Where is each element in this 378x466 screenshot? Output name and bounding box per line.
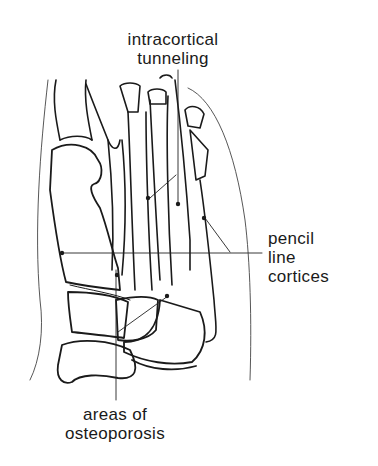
- foot-skeleton-drawing: [0, 0, 378, 466]
- leader-lines: [62, 70, 262, 400]
- metatarsals: [54, 80, 216, 342]
- tarsal-bones: [50, 145, 205, 383]
- soft-tissue-outline: [30, 80, 251, 380]
- phalanges: [120, 75, 208, 180]
